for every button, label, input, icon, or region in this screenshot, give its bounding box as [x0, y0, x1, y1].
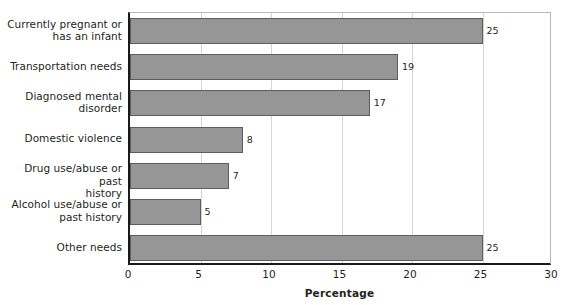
- bar: [130, 90, 370, 116]
- bar: [130, 127, 243, 153]
- category-label: Domestic violence: [0, 132, 122, 145]
- x-tick-label: 5: [195, 268, 202, 280]
- category-label: Transportation needs: [0, 60, 122, 73]
- plot-area: 25191787525: [128, 12, 551, 265]
- x-axis-title: Percentage: [128, 287, 551, 299]
- x-tick-label: 25: [474, 268, 487, 280]
- bar-value-label: 25: [487, 26, 499, 36]
- bar-value-label: 25: [487, 243, 499, 253]
- bar: [130, 54, 398, 80]
- bar-value-label: 17: [374, 98, 386, 108]
- category-axis-labels: Currently pregnant or has an infantTrans…: [0, 12, 122, 265]
- x-tick-label: 20: [403, 268, 416, 280]
- bars-layer: 25191787525: [130, 13, 550, 263]
- x-axis-tick-labels: 051015202530: [128, 268, 551, 282]
- bar-chart: Currently pregnant or has an infantTrans…: [0, 0, 567, 305]
- bar: [130, 18, 483, 44]
- category-label: Currently pregnant or has an infant: [0, 18, 122, 43]
- category-label: Alcohol use/abuse or past history: [0, 198, 122, 223]
- bar-value-label: 8: [247, 135, 253, 145]
- bar-value-label: 7: [233, 171, 239, 181]
- category-label: Other needs: [0, 241, 122, 254]
- bar-value-label: 19: [402, 62, 414, 72]
- x-tick-label: 0: [125, 268, 132, 280]
- x-tick-label: 10: [262, 268, 275, 280]
- x-tick-label: 15: [333, 268, 346, 280]
- bar: [130, 199, 201, 225]
- bar: [130, 235, 483, 261]
- category-label: Diagnosed mental disorder: [0, 90, 122, 115]
- bar-value-label: 5: [205, 207, 211, 217]
- x-tick-label: 30: [544, 268, 557, 280]
- bar: [130, 163, 229, 189]
- category-label: Drug use/abuse or past history: [0, 162, 122, 200]
